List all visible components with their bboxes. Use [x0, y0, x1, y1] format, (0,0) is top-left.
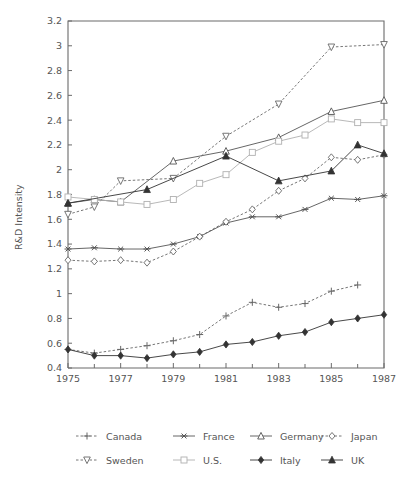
data-point-marker [84, 457, 91, 464]
data-point-marker [381, 120, 387, 126]
data-point-marker [328, 288, 335, 295]
data-point-marker [223, 312, 230, 319]
data-point-marker [170, 242, 177, 247]
y-tick-label: 0.6 [47, 338, 62, 349]
data-point-marker [302, 300, 309, 307]
data-point-marker [381, 311, 386, 318]
y-axis-label: R&D Intensity [13, 184, 24, 250]
series-line [68, 155, 384, 263]
data-point-marker [170, 248, 176, 255]
y-tick-label: 1.2 [47, 263, 62, 274]
chart-legend: CanadaFranceGermanyJapanSwedenU.S.ItalyU… [76, 431, 378, 466]
legend-item-u-s-[interactable]: U.S. [173, 455, 222, 466]
series-u-s- [65, 116, 387, 208]
data-point-marker [84, 433, 91, 440]
data-point-marker [354, 281, 361, 288]
y-tick-label: 1 [56, 288, 62, 299]
data-point-marker [223, 172, 229, 178]
legend-item-japan[interactable]: Japan [321, 431, 378, 442]
legend-item-germany[interactable]: Germany [250, 431, 324, 442]
y-tick-label: 2.4 [47, 115, 62, 126]
data-point-marker [196, 331, 203, 338]
data-point-marker [170, 337, 177, 344]
data-point-marker [328, 116, 334, 122]
y-tick-label: 2 [56, 164, 62, 175]
series-layer [65, 42, 388, 362]
x-tick-label: 1985 [319, 373, 343, 384]
legend-label: Japan [350, 431, 378, 442]
data-point-marker [328, 154, 334, 161]
data-point-marker [144, 259, 150, 266]
legend-label: Italy [280, 455, 301, 466]
data-point-marker [249, 299, 256, 306]
data-point-marker [250, 338, 255, 345]
data-point-marker [223, 341, 228, 348]
legend-item-france[interactable]: France [173, 431, 235, 442]
data-point-marker [355, 156, 361, 163]
data-point-marker [249, 206, 255, 213]
data-point-marker [354, 141, 361, 148]
y-tick-label: 2.2 [47, 139, 62, 150]
x-tick-label: 1987 [372, 373, 396, 384]
data-point-marker [144, 186, 151, 193]
x-tick-label: 1977 [109, 373, 133, 384]
data-point-marker [258, 456, 263, 463]
data-point-marker [171, 351, 176, 358]
series-line [68, 315, 384, 358]
legend-label: Canada [106, 431, 142, 442]
data-point-marker [329, 433, 335, 440]
data-point-marker [65, 211, 72, 218]
data-point-marker [354, 197, 361, 202]
data-point-marker [118, 352, 123, 359]
legend-item-italy[interactable]: Italy [250, 455, 301, 466]
y-tick-label: 1.4 [47, 238, 62, 249]
data-point-marker [170, 196, 176, 202]
y-tick-label: 3.2 [47, 15, 62, 26]
data-point-marker [275, 304, 282, 311]
legend-item-canada[interactable]: Canada [76, 431, 142, 442]
x-axis-ticks: 1975197719791981198319851987 [56, 363, 396, 384]
data-point-marker [249, 149, 255, 155]
legend-label: France [203, 431, 235, 442]
data-point-marker [181, 434, 188, 439]
data-point-marker [144, 201, 150, 207]
y-tick-label: 1.6 [47, 214, 62, 225]
series-line [68, 119, 384, 205]
y-tick-label: 2.8 [47, 65, 62, 76]
legend-item-sweden[interactable]: Sweden [76, 455, 144, 466]
data-point-marker [181, 457, 187, 463]
data-point-marker [91, 258, 97, 265]
legend-label: UK [351, 455, 365, 466]
x-tick-label: 1979 [161, 373, 185, 384]
series-canada [65, 281, 362, 356]
chart-svg: 0.40.60.811.21.41.61.822.22.42.62.833.2 … [0, 0, 412, 480]
data-point-marker [223, 133, 230, 140]
y-tick-label: 1.8 [47, 189, 62, 200]
data-point-marker [329, 319, 334, 326]
data-point-marker [381, 97, 388, 104]
data-point-marker [276, 332, 281, 339]
series-line [68, 285, 358, 353]
legend-label: U.S. [203, 455, 222, 466]
data-point-marker [65, 257, 71, 264]
data-point-marker [197, 348, 202, 355]
legend-item-uk[interactable]: UK [321, 455, 365, 466]
data-point-marker [144, 247, 151, 252]
data-point-marker [276, 138, 282, 144]
data-point-marker [355, 315, 360, 322]
series-line [68, 45, 384, 215]
series-sweden [65, 42, 388, 218]
rd-intensity-chart: 0.40.60.811.21.41.61.822.22.42.62.833.2 … [0, 0, 412, 480]
data-point-marker [91, 196, 97, 202]
data-point-marker [91, 204, 98, 211]
data-point-marker [328, 196, 335, 201]
y-tick-label: 0.8 [47, 313, 62, 324]
data-point-marker [249, 214, 256, 219]
data-point-marker [144, 354, 149, 361]
data-point-marker [302, 328, 307, 335]
data-point-marker [118, 199, 124, 205]
data-point-marker [275, 101, 282, 108]
legend-label: Germany [280, 431, 324, 442]
y-tick-label: 0.4 [47, 362, 62, 373]
y-tick-label: 2.6 [47, 90, 62, 101]
